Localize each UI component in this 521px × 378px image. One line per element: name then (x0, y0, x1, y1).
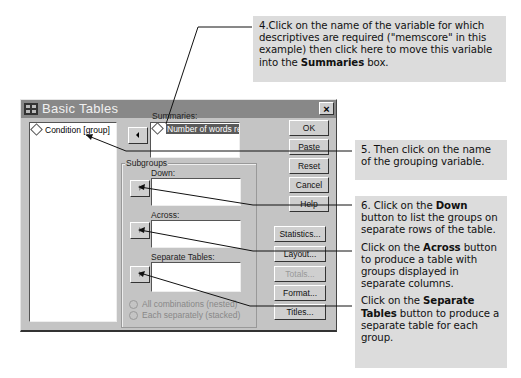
down-label: Down: (151, 168, 175, 178)
radio-label: All combinations (nested) (142, 299, 237, 309)
arrow-right-icon (139, 227, 142, 233)
annotation-text: 5. Then click on the name of the groupin… (361, 144, 491, 167)
annotation-bold: Across (423, 242, 460, 253)
annotation-bold: Summaries (301, 57, 364, 68)
radio-icon (129, 311, 138, 320)
move-to-down-button[interactable] (130, 180, 150, 197)
variable-icon (30, 123, 43, 136)
annotation-text: Click on the (361, 242, 423, 253)
paste-button[interactable]: Paste (289, 139, 329, 155)
across-label: Across: (151, 210, 179, 220)
app-icon (24, 103, 38, 115)
subgroups-label: Subgroups (125, 158, 168, 168)
close-button[interactable]: × (319, 102, 334, 115)
radio-all-combinations[interactable]: All combinations (nested) (129, 299, 237, 309)
across-list[interactable] (151, 220, 241, 248)
format-button[interactable]: Format... (274, 285, 326, 301)
annotation-text: 6. Click on the (361, 200, 436, 211)
move-to-summaries-button[interactable] (128, 127, 148, 144)
annotation-text: Click on the (361, 295, 423, 306)
arrow-left-icon (136, 132, 139, 138)
arrow-right-icon (139, 271, 142, 277)
annotation-step-4: 4.Click on the name of the variable for … (253, 16, 506, 82)
reset-button[interactable]: Reset (289, 158, 329, 174)
annotation-bold: Down (436, 200, 468, 211)
summaries-item-label: Number of words recal (166, 124, 239, 134)
radio-label: Each separately (stacked) (142, 310, 240, 320)
annotation-text: button to list the groups on separate ro… (361, 212, 498, 235)
statistics-button[interactable]: Statistics... (274, 226, 326, 242)
separate-tables-list[interactable] (151, 262, 241, 292)
summaries-item[interactable]: Number of words recal (151, 123, 239, 135)
totals-button[interactable]: Totals... (274, 266, 326, 282)
annotation-text: box. (364, 57, 388, 68)
cancel-button[interactable]: Cancel (289, 177, 329, 193)
help-button[interactable]: Help (289, 196, 329, 212)
arrow-right-icon (139, 185, 142, 191)
annotation-step-6: 6. Click on the Down button to list the … (355, 196, 507, 368)
variable-item[interactable]: Condition [group] (30, 123, 116, 137)
dialog-title: Basic Tables (42, 101, 118, 116)
separate-tables-label: Separate Tables: (151, 252, 215, 262)
ok-button[interactable]: OK (289, 120, 329, 136)
variable-label: Condition [group] (45, 125, 110, 135)
layout-button[interactable]: Layout... (274, 246, 326, 262)
down-list[interactable] (151, 178, 241, 206)
summaries-list[interactable]: Number of words recal (150, 122, 240, 158)
move-to-separate-tables-button[interactable] (130, 266, 150, 283)
summaries-label: Summaries: (152, 111, 197, 121)
basic-tables-dialog: Basic Tables × Condition [group] Summari… (20, 99, 337, 332)
radio-icon (129, 300, 138, 309)
variable-icon (151, 123, 164, 135)
move-to-across-button[interactable] (130, 222, 150, 239)
annotation-step-5: 5. Then click on the name of the groupin… (355, 140, 507, 180)
titles-button[interactable]: Titles... (274, 304, 326, 320)
radio-each-separately[interactable]: Each separately (stacked) (129, 310, 240, 320)
variable-list[interactable]: Condition [group] (29, 122, 117, 322)
